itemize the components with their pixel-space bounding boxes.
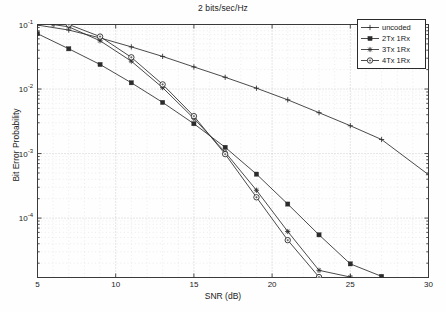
x-tick-label: 25 <box>335 280 365 289</box>
y-tick-exponent: -2 <box>28 83 33 89</box>
marker-fill <box>317 233 321 237</box>
data-marker-plus <box>348 123 353 128</box>
y-tick-mantissa: 10 <box>19 214 28 223</box>
data-marker-star-filled <box>98 62 102 66</box>
legend-sample-svg <box>360 22 380 33</box>
y-tick-label: 10-4 <box>1 212 33 223</box>
legend-item-3tx-1rx: 3Tx 1Rx <box>360 44 423 55</box>
data-marker-circle <box>254 195 259 200</box>
data-marker-asterisk <box>51 22 56 27</box>
data-marker-star-filled <box>348 262 352 266</box>
marker-fill <box>67 47 71 51</box>
y-tick-mantissa: 10 <box>19 149 28 158</box>
legend-sample-svg <box>360 44 380 55</box>
data-marker-circle <box>316 274 321 279</box>
data-marker-asterisk <box>348 274 353 279</box>
legend-marker-plus-icon <box>360 22 380 33</box>
y-tick-exponent: -3 <box>28 148 33 154</box>
data-marker-star-filled <box>161 100 165 104</box>
data-marker-plus <box>316 110 321 115</box>
data-marker-circle <box>97 34 102 39</box>
figure-canvas: 2 bits/sec/Hz Bit Error Probability SNR … <box>0 0 446 312</box>
data-marker-circle <box>222 151 227 156</box>
x-tick-label: 20 <box>257 280 287 289</box>
data-marker-plus <box>367 25 372 30</box>
data-marker-plus <box>285 97 290 102</box>
series-3tx-1rx <box>51 22 353 280</box>
y-tick-mantissa: 10 <box>19 20 28 29</box>
data-marker-circle <box>191 113 196 118</box>
legend-marker-asterisk-icon <box>360 44 380 55</box>
data-marker-star-filled <box>368 36 372 40</box>
y-tick-mantissa: 10 <box>19 85 28 94</box>
series-line <box>53 25 350 278</box>
data-marker-star-filled <box>317 233 321 237</box>
legend-item-2tx-1rx: 2Tx 1Rx <box>360 33 423 44</box>
marker-fill <box>98 62 102 66</box>
legend-label: 4Tx 1Rx <box>380 56 410 65</box>
legend-sample-svg <box>360 33 380 44</box>
data-marker-plus <box>129 44 134 49</box>
legend-marker-circle-icon <box>360 55 380 66</box>
marker-fill <box>223 145 227 149</box>
data-marker-circle <box>160 82 165 87</box>
data-marker-star-filled <box>129 81 133 85</box>
data-marker-plus <box>35 22 40 27</box>
legend-label: 3Tx 1Rx <box>380 45 410 54</box>
data-marker-asterisk <box>316 268 321 273</box>
y-tick-label: 10-3 <box>1 148 33 159</box>
marker-fill <box>161 100 165 104</box>
data-marker-circle <box>285 237 290 242</box>
data-marker-asterisk <box>367 47 372 52</box>
data-marker-plus <box>254 86 259 91</box>
y-tick-label: 10-2 <box>1 83 33 94</box>
x-tick-label: 10 <box>101 280 131 289</box>
marker-fill <box>129 81 133 85</box>
y-tick-exponent: -1 <box>28 19 33 25</box>
data-marker-star-filled <box>286 202 290 206</box>
marker-fill <box>348 262 352 266</box>
legend-item-uncoded: uncoded <box>360 22 423 33</box>
data-marker-asterisk <box>285 229 290 234</box>
marker-fill <box>254 172 258 176</box>
marker-fill <box>35 32 39 36</box>
data-marker-star-filled <box>223 145 227 149</box>
legend-sample-svg <box>360 55 380 66</box>
y-tick-label: 10-1 <box>1 19 33 30</box>
data-marker-star-filled <box>35 32 39 36</box>
data-marker-asterisk <box>254 188 259 193</box>
data-marker-star-filled <box>67 47 71 51</box>
x-tick-label: 5 <box>23 280 53 289</box>
legend-label: 2Tx 1Rx <box>380 34 410 43</box>
legend-marker-star-filled-icon <box>360 33 380 44</box>
data-marker-circle <box>66 22 71 27</box>
marker-fill <box>368 36 372 40</box>
chart-legend: uncoded2Tx 1Rx3Tx 1Rx4Tx 1Rx <box>357 19 426 69</box>
x-tick-label: 15 <box>179 280 209 289</box>
legend-label: uncoded <box>380 23 411 32</box>
data-marker-circle <box>367 58 372 63</box>
data-marker-plus <box>223 75 228 80</box>
x-tick-label: 30 <box>414 280 444 289</box>
data-marker-star-filled <box>254 172 258 176</box>
data-marker-plus <box>191 64 196 69</box>
data-marker-circle <box>129 55 134 60</box>
marker-fill <box>192 122 196 126</box>
y-tick-exponent: -4 <box>28 212 33 218</box>
data-marker-star-filled <box>192 122 196 126</box>
marker-fill <box>286 202 290 206</box>
legend-item-4tx-1rx: 4Tx 1Rx <box>360 55 423 66</box>
